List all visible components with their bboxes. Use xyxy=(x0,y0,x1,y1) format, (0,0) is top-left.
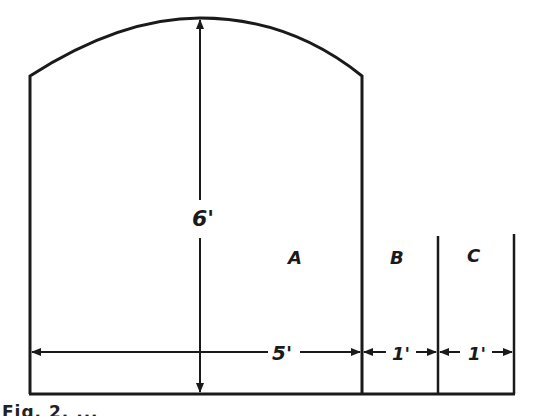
region-b-label: B xyxy=(390,247,404,268)
figure-caption: Fig. 2. ... xyxy=(0,404,536,416)
region-a-label: A xyxy=(286,247,302,268)
width-b-label: 1' xyxy=(392,343,410,364)
height-label: 6' xyxy=(192,206,214,231)
width-c-label: 1' xyxy=(468,343,486,364)
width-a-label: 5' xyxy=(272,341,292,365)
doorway-dimension-diagram: 6' 5' 1' 1' A B C xyxy=(0,0,536,416)
region-c-label: C xyxy=(467,245,481,266)
figure-caption-text: Fig. 2. ... xyxy=(0,404,536,416)
